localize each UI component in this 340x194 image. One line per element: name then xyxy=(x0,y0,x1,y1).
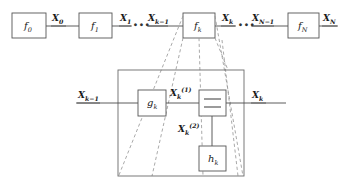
ellipsis-left: ∙∙∙ xyxy=(133,20,151,30)
block-label-fN: fN xyxy=(298,21,307,34)
block-combine xyxy=(199,90,226,116)
detail-state-label-xk-minus-1: Xk−1 xyxy=(78,91,99,102)
block-label-gk: gk xyxy=(147,98,157,111)
block-label-f1: f1 xyxy=(91,21,99,34)
block-label-f0: f0 xyxy=(24,21,32,34)
state-label-xk-minus-1: Xk−1 xyxy=(148,14,169,25)
figure-canvas: f0 f1 fk fN X0 X1 Xk−1 Xk XN−1 XN ∙∙∙ ∙∙… xyxy=(0,0,340,194)
block-label-fk: fk xyxy=(194,21,202,34)
ellipsis-right: ∙∙∙ xyxy=(238,20,256,30)
state-label-x1: X1 xyxy=(120,14,131,25)
block-label-hk: hk xyxy=(208,154,218,167)
state-label-xN: XN xyxy=(323,14,336,25)
expansion-line-right-inner xyxy=(215,38,228,70)
detail-state-label-xk-2: Xk(2) xyxy=(178,123,199,136)
state-label-xk-top: Xk xyxy=(222,14,233,25)
detail-state-label-xk: Xk xyxy=(252,91,263,102)
state-label-x0: X0 xyxy=(52,14,63,25)
detail-state-label-xk-1: Xk(1) xyxy=(170,87,191,100)
